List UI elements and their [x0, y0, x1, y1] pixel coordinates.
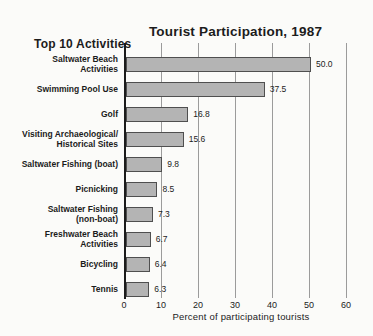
category-label: Bicycling: [0, 257, 118, 272]
figure: Tourist Participation, 1987 Top 10 Activ…: [0, 0, 373, 336]
category-label-line: Saltwater Fishing (boat): [22, 160, 118, 170]
category-label-line: Picnicking: [75, 185, 118, 195]
value-label: 6.7: [156, 232, 168, 247]
chart-title: Tourist Participation, 1987: [100, 24, 371, 39]
bar: [126, 82, 265, 97]
bar: [126, 57, 311, 72]
value-label: 9.8: [167, 157, 179, 172]
value-label: 6.3: [154, 282, 166, 297]
x-tick-label: 20: [186, 300, 210, 310]
category-label-line: Golf: [101, 110, 118, 120]
category-label: Saltwater Fishing (boat): [0, 157, 118, 172]
category-label: Saltwater BeachActivities: [0, 57, 118, 72]
x-tick-label: 40: [260, 300, 284, 310]
value-label: 37.5: [270, 82, 287, 97]
category-label-line: Tennis: [91, 285, 118, 295]
bar: [126, 282, 149, 297]
category-label: Swimming Pool Use: [0, 82, 118, 97]
gridline: [309, 43, 310, 298]
x-tick-label: 10: [149, 300, 173, 310]
category-label-line: Bicycling: [80, 260, 118, 270]
x-tick-label: 0: [112, 300, 136, 310]
bar: [126, 232, 151, 247]
x-tick-label: 30: [223, 300, 247, 310]
category-label: Saltwater Fishing(non-boat): [0, 207, 118, 222]
category-label-line: (non-boat): [76, 215, 118, 225]
value-label: 15.6: [189, 132, 206, 147]
x-axis-label: Percent of participating tourists: [110, 311, 372, 322]
category-label: Golf: [0, 107, 118, 122]
gridline: [346, 43, 347, 298]
top-activities-label: Top 10 Activities: [34, 37, 131, 51]
x-tick-label: 50: [297, 300, 321, 310]
value-label: 7.3: [158, 207, 170, 222]
x-tick-label: 60: [334, 300, 358, 310]
category-label-line: Activities: [80, 240, 118, 250]
bar: [126, 107, 188, 122]
bar: [126, 182, 157, 197]
category-label: Freshwater BeachActivities: [0, 232, 118, 247]
bar: [126, 157, 162, 172]
category-label: Tennis: [0, 282, 118, 297]
value-label: 8.5: [162, 182, 174, 197]
bar: [126, 132, 184, 147]
value-label: 50.0: [316, 57, 333, 72]
category-label: Visiting Archaeological/Historical Sites: [0, 132, 118, 147]
bar: [126, 207, 153, 222]
category-label: Picnicking: [0, 182, 118, 197]
category-label-line: Historical Sites: [57, 140, 118, 150]
value-label: 6.4: [155, 257, 167, 272]
category-label-line: Swimming Pool Use: [37, 85, 118, 95]
value-label: 16.8: [193, 107, 210, 122]
bar: [126, 257, 150, 272]
category-label-line: Activities: [80, 65, 118, 75]
